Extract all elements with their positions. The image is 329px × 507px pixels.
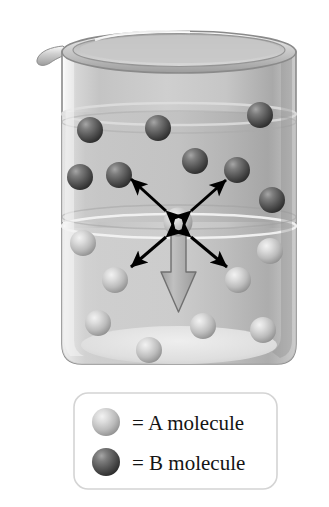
a-molecule-3 bbox=[102, 267, 128, 293]
legend-item-a: = A molecule bbox=[92, 408, 244, 436]
legend-label-b: = B molecule bbox=[132, 451, 245, 475]
a-molecule-6 bbox=[190, 313, 216, 339]
b-molecule-4 bbox=[67, 164, 93, 190]
b-molecule-6 bbox=[182, 148, 208, 174]
legend-label-a: = A molecule bbox=[132, 411, 244, 435]
a-molecule-center bbox=[164, 208, 193, 237]
a-molecule-4 bbox=[225, 267, 251, 293]
a-molecule-8 bbox=[136, 337, 162, 363]
beaker-mouth-opening bbox=[80, 35, 280, 63]
b-molecule-7 bbox=[224, 157, 250, 183]
a-molecule-5 bbox=[85, 310, 111, 336]
legend-item-b: = B molecule bbox=[92, 448, 245, 476]
beaker-diagram-figure: = A molecule = B molecule bbox=[0, 0, 329, 507]
a-molecule-2 bbox=[257, 238, 283, 264]
beaker-bottom-pool bbox=[81, 326, 277, 364]
b-molecule-5 bbox=[106, 162, 132, 188]
legend-box: = A molecule = B molecule bbox=[74, 393, 277, 489]
b-molecule-3 bbox=[247, 102, 273, 128]
beaker bbox=[37, 31, 296, 364]
a-molecule-swatch bbox=[92, 408, 120, 436]
b-molecule-2 bbox=[145, 115, 171, 141]
b-molecule-8 bbox=[259, 187, 285, 213]
a-molecule-7 bbox=[250, 317, 276, 343]
b-molecule-1 bbox=[77, 117, 103, 143]
a-molecule-1 bbox=[70, 230, 96, 256]
b-molecule-swatch bbox=[92, 448, 120, 476]
